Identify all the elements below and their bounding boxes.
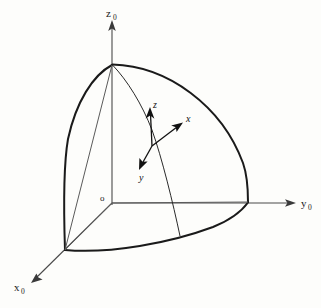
z-zero-axis bbox=[108, 20, 116, 205]
y-zero-axis-label: y 0 bbox=[301, 197, 312, 212]
x-local-axis-line bbox=[152, 127, 177, 146]
z-zero-label-letter: z bbox=[106, 7, 111, 19]
x-zero-label-letter: x bbox=[14, 281, 20, 293]
y-local-label: y bbox=[138, 172, 144, 183]
x-zero-axis-label: x 0 bbox=[14, 281, 25, 296]
figure-canvas: z 0 y 0 x 0 o z x y bbox=[0, 0, 321, 308]
arc-x-vertex-to-y-vertex bbox=[65, 203, 248, 251]
z-zero-label-subscript: 0 bbox=[113, 13, 117, 22]
z-zero-axis-label: z 0 bbox=[106, 7, 117, 22]
origin-label: o bbox=[100, 193, 105, 203]
coordinate-diagram: z 0 y 0 x 0 o z x y bbox=[0, 0, 321, 308]
arc-pole-to-y-vertex bbox=[113, 65, 249, 203]
meridian-curve bbox=[113, 65, 181, 236]
z-local-axis-line bbox=[151, 114, 153, 146]
x-zero-arrowhead bbox=[31, 273, 43, 283]
edge-pole-to-x-vertex bbox=[65, 65, 112, 250]
x-zero-label-subscript: 0 bbox=[21, 287, 25, 296]
x-local-label: x bbox=[185, 113, 191, 124]
edge-origin-to-x-vertex bbox=[65, 203, 112, 250]
local-frame bbox=[139, 107, 183, 170]
y-zero-label-letter: y bbox=[301, 197, 307, 209]
y-zero-label-subscript: 0 bbox=[308, 203, 312, 212]
y-local-axis-line bbox=[143, 146, 153, 163]
z-local-label: z bbox=[152, 99, 157, 110]
y-local-arrowhead bbox=[139, 158, 148, 170]
